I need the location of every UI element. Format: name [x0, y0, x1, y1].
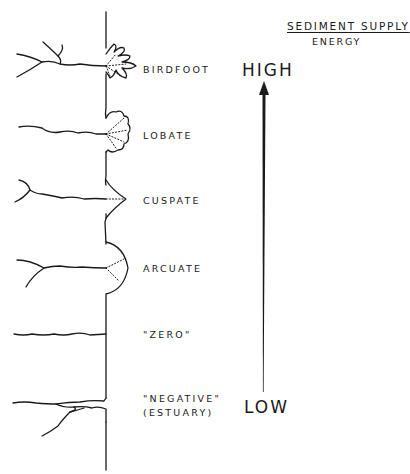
label-negative-line1: "NEGATIVE"	[143, 392, 221, 406]
energy-arrow-head	[259, 81, 269, 95]
lobate-delta	[19, 111, 130, 152]
arcuate-delta	[17, 242, 128, 294]
birdfoot-delta	[17, 42, 136, 78]
label-arcuate: ARCUATE	[143, 263, 202, 274]
header-title: SEDIMENT SUPPLY	[287, 20, 410, 32]
label-lobate: LOBATE	[143, 130, 193, 141]
coastline	[105, 12, 106, 470]
header-subtitle: ENERGY	[312, 36, 361, 47]
energy-arrow-shaft	[263, 95, 266, 392]
cuspate-delta	[15, 180, 126, 218]
negative-estuary	[13, 398, 106, 436]
zero-delta	[14, 333, 106, 335]
label-zero: "ZERO"	[143, 329, 192, 340]
label-birdfoot: BIRDFOOT	[143, 64, 210, 75]
label-cuspate: CUSPATE	[143, 195, 201, 206]
scale-high-label: HIGH	[242, 60, 294, 80]
label-negative: "NEGATIVE" (ESTUARY)	[143, 392, 221, 420]
label-negative-line2: (ESTUARY)	[143, 406, 221, 420]
scale-low-label: LOW	[244, 397, 289, 417]
